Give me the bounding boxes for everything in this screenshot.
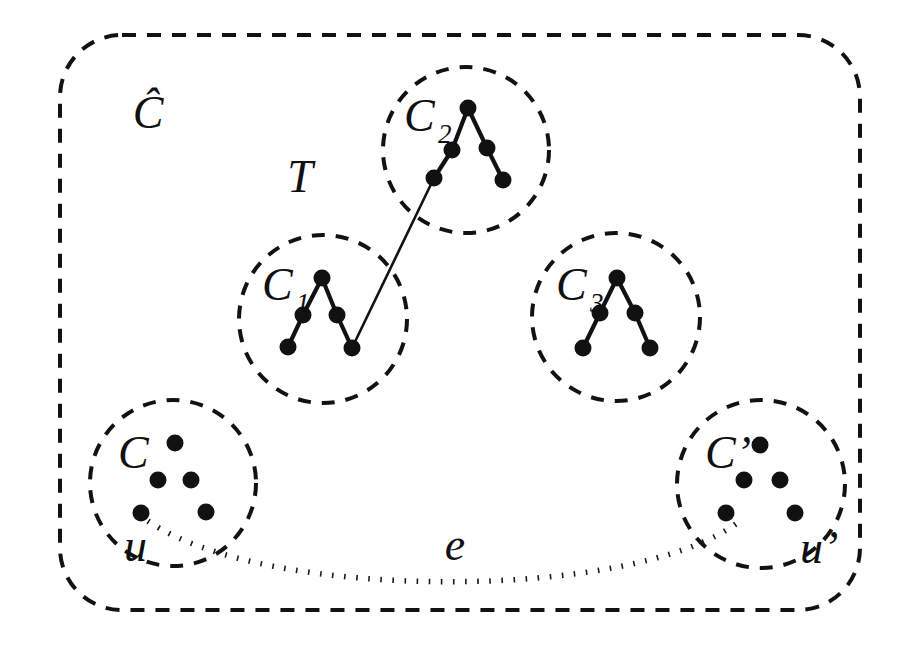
tree-node	[575, 340, 592, 357]
cluster-c3-subscript: 3	[589, 288, 604, 318]
edge-label-e: e	[445, 519, 465, 570]
figure-canvas: Ĉ T C 1 C 2 C 3 C u C’ u’ e	[0, 0, 922, 657]
cluster-c3-tree	[575, 270, 659, 357]
vertex-dot-uprime	[787, 505, 804, 522]
vertex-dot	[167, 435, 184, 452]
tree-node	[479, 140, 496, 157]
tree-node	[329, 307, 346, 324]
vertex-dot	[752, 437, 769, 454]
tree-node	[280, 339, 297, 356]
cluster-c-label: C	[118, 427, 150, 478]
cluster-cprime-label: C’	[705, 427, 751, 478]
vertex-dot	[150, 472, 167, 489]
tree-node	[627, 305, 644, 322]
tree-node	[460, 100, 477, 117]
tree-node	[642, 340, 659, 357]
tree-link-c1-c2	[352, 178, 434, 348]
tree-node	[344, 340, 361, 357]
vertex-dot	[772, 472, 789, 489]
tree-node	[495, 172, 512, 189]
cluster-c2-subscript: 2	[438, 119, 452, 149]
vertex-dot	[183, 472, 200, 489]
vertex-label-uprime: u’	[800, 522, 838, 573]
cluster-c1-subscript: 1	[296, 288, 310, 318]
cluster-c1-label: C	[262, 259, 294, 310]
tree-node	[609, 270, 626, 287]
vertex-dot	[718, 505, 735, 522]
cluster-c3-label: C	[556, 259, 588, 310]
tree-label: T	[287, 151, 316, 202]
vertex-dot	[198, 504, 215, 521]
outer-cluster-label: Ĉ	[133, 87, 165, 138]
vertex-label-u: u	[124, 520, 147, 571]
vertex-dot-u	[133, 505, 150, 522]
diagram-svg: Ĉ T C 1 C 2 C 3 C u C’ u’ e	[0, 0, 922, 657]
tree-node	[314, 270, 331, 287]
cluster-c2-label: C	[404, 90, 436, 141]
tree-node	[426, 170, 443, 187]
cluster-c-boundary	[90, 400, 256, 566]
